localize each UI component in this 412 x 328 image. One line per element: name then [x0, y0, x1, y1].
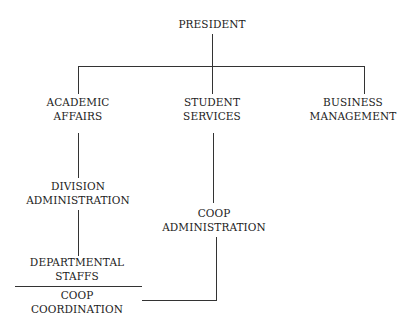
connector-to-student [212, 66, 213, 94]
node-label: STAFFS [30, 270, 124, 284]
connector-to-business [364, 66, 365, 94]
node-label: AFFAIRS [46, 110, 109, 124]
node-label: MANAGEMENT [310, 110, 397, 124]
node-label: ADMINISTRATION [26, 194, 130, 208]
connector-president-down [212, 34, 213, 66]
node-label: STUDENT [183, 96, 241, 110]
connector-top-bar [78, 66, 365, 67]
node-label: COOP [31, 289, 123, 303]
node-label: ACADEMIC [46, 96, 109, 110]
node-coop-administration: COOP ADMINISTRATION [162, 207, 266, 234]
node-label: SERVICES [183, 110, 241, 124]
connector-coop-admin-down [216, 237, 217, 301]
node-label: BUSINESS [310, 96, 397, 110]
node-academic-affairs: ACADEMIC AFFAIRS [46, 96, 109, 123]
connector-academic-to-division [78, 133, 79, 178]
node-student-services: STUDENT SERVICES [183, 96, 241, 123]
node-label: PRESIDENT [178, 18, 245, 32]
node-division-administration: DIVISION ADMINISTRATION [26, 180, 130, 207]
divider-staffs-coordination [15, 286, 142, 287]
connector-student-to-coop-admin [213, 133, 214, 203]
connector-to-academic [78, 66, 79, 94]
node-president: PRESIDENT [178, 18, 245, 32]
node-label: DEPARTMENTAL [30, 256, 124, 270]
node-label: DIVISION [26, 180, 130, 194]
connector-to-coop-coordination [142, 300, 217, 301]
node-label: COOP [162, 207, 266, 221]
node-departmental-staffs: DEPARTMENTAL STAFFS [30, 256, 124, 283]
node-label: ADMINISTRATION [162, 221, 266, 235]
node-coop-coordination: COOP COORDINATION [31, 289, 123, 316]
node-business-management: BUSINESS MANAGEMENT [310, 96, 397, 123]
node-label: COORDINATION [31, 303, 123, 317]
connector-division-to-departmental [78, 210, 79, 256]
org-chart: PRESIDENT ACADEMIC AFFAIRS STUDENT SERVI… [0, 0, 412, 328]
